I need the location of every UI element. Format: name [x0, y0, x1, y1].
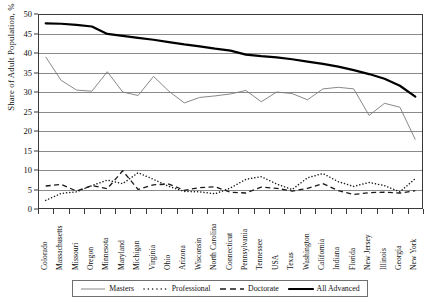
- y-tick-label: 5: [28, 185, 32, 195]
- legend-label: Masters: [109, 284, 134, 293]
- y-tick-label: 35: [24, 68, 33, 78]
- x-tick-label: Indiana: [332, 247, 341, 270]
- legend-swatch-dashed-icon: [219, 285, 245, 293]
- x-tick-label: Missouri: [71, 243, 80, 270]
- legend-label: All Advanced: [317, 284, 360, 293]
- legend-item-masters[interactable]: Masters: [80, 284, 134, 293]
- series-line-professional: [46, 173, 416, 201]
- x-tick-label: New York: [409, 239, 418, 270]
- y-tick-label: 20: [24, 126, 33, 136]
- y-tick-label: 50: [24, 9, 33, 19]
- x-tick-mark: [423, 209, 424, 214]
- series-line-masters: [46, 57, 416, 140]
- x-tick-label: New Jersey: [363, 234, 372, 270]
- x-tick-label: USA: [271, 255, 280, 270]
- x-tick-label: Arizona: [178, 245, 187, 270]
- legend-item-all-advanced[interactable]: All Advanced: [288, 284, 360, 293]
- x-tick-label: Tennessee: [255, 238, 264, 270]
- x-tick-label: North Carolina: [209, 224, 218, 270]
- y-tick-label: 30: [24, 87, 33, 97]
- x-tick-label: Illinois: [379, 248, 388, 270]
- x-tick-label: Ohio: [163, 255, 172, 270]
- y-tick-label: 45: [24, 29, 33, 39]
- y-tick-label: 15: [24, 146, 33, 156]
- x-axis-labels: ColoradoMassachusettsMissouriOregonMinne…: [38, 214, 423, 272]
- x-tick-label: Texas: [286, 252, 295, 270]
- series-line-doctorate: [46, 171, 416, 195]
- x-tick-label: Georgia: [394, 245, 403, 270]
- x-tick-label: Maryland: [117, 240, 126, 270]
- x-tick-label: Washington: [302, 233, 311, 270]
- x-tick-label: Wisconsin: [194, 238, 203, 270]
- chart-container: 05101520253035404550 ColoradoMassachuset…: [0, 0, 433, 306]
- legend-item-doctorate[interactable]: Doctorate: [219, 284, 279, 293]
- legend-label: Professional: [172, 284, 211, 293]
- series-layer: [38, 14, 423, 209]
- legend-swatch-dotted-icon: [143, 285, 169, 293]
- x-tick-label: Pennsylvania: [240, 229, 249, 270]
- x-tick-label: California: [317, 239, 326, 270]
- y-axis-title: Share of Adult Population, %: [6, 0, 16, 142]
- x-tick-label: Minnesota: [101, 237, 110, 270]
- legend-item-professional[interactable]: Professional: [143, 284, 211, 293]
- x-tick-label: Virginia: [148, 245, 157, 270]
- x-tick-label: Massachusetts: [55, 225, 64, 270]
- y-tick-label: 10: [24, 165, 33, 175]
- x-tick-label: Connecticut: [225, 233, 234, 270]
- y-tick-label: 25: [24, 107, 33, 117]
- y-tick-label: 0: [28, 204, 32, 214]
- legend-label: Doctorate: [248, 284, 279, 293]
- x-tick-label: Florida: [348, 248, 357, 270]
- x-tick-label: Michigan: [132, 240, 141, 270]
- series-line-all-advanced: [46, 23, 416, 96]
- y-tick-label: 40: [24, 48, 33, 58]
- x-tick-label: Colorado: [40, 241, 49, 270]
- x-tick-label: Oregon: [86, 247, 95, 270]
- chart-legend: MastersProfessionalDoctorateAll Advanced: [72, 280, 368, 297]
- legend-swatch-solid-thick-icon: [288, 285, 314, 293]
- legend-swatch-solid-thin-icon: [80, 285, 106, 293]
